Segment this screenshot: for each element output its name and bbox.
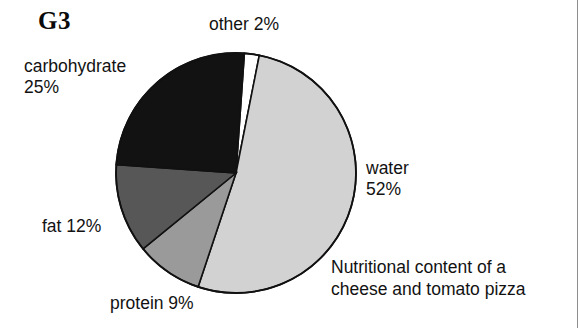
pie-slices bbox=[116, 53, 356, 293]
pie-label-water: water52% bbox=[366, 158, 409, 200]
figure-page: G3 carbohydrate25% other 2% water52% fat… bbox=[0, 0, 585, 328]
pie-label-fat: fat 12% bbox=[42, 216, 101, 237]
pie-label-protein: protein 9% bbox=[110, 293, 194, 314]
page-edge-rule bbox=[577, 0, 578, 328]
pie-slice-carbohydrate[interactable] bbox=[116, 53, 244, 173]
figure-id-label: G3 bbox=[38, 8, 71, 33]
pie-label-other: other 2% bbox=[209, 14, 279, 35]
pie-label-water-line1: water bbox=[366, 158, 409, 178]
pie-label-carbohydrate: carbohydrate25% bbox=[24, 56, 126, 98]
figure-caption-line2: cheese and tomato pizza bbox=[331, 279, 526, 299]
pie-chart bbox=[113, 50, 359, 296]
pie-chart-svg bbox=[113, 50, 359, 296]
figure-caption: Nutritional content of acheese and tomat… bbox=[331, 256, 526, 300]
pie-label-carbohydrate-line1: carbohydrate bbox=[24, 56, 126, 76]
figure-caption-line1: Nutritional content of a bbox=[331, 257, 506, 277]
pie-label-carbohydrate-line2: 25% bbox=[24, 77, 59, 97]
pie-label-water-line2: 52% bbox=[366, 179, 401, 199]
